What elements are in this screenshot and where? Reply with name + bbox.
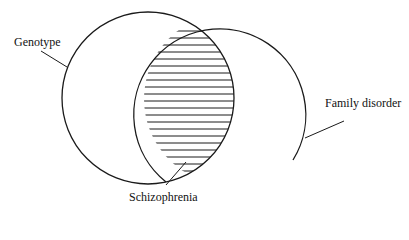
schizophrenia-label: Schizophrenia bbox=[129, 190, 198, 205]
intersection-hatch bbox=[140, 31, 240, 171]
genotype-leader-line bbox=[41, 51, 67, 67]
genotype-label: Genotype bbox=[14, 35, 61, 50]
family-disorder-leader-line bbox=[305, 121, 344, 138]
schizophrenia-leader-line bbox=[166, 162, 186, 185]
family-disorder-label: Family disorder bbox=[325, 96, 401, 111]
